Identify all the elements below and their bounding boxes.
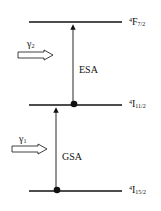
photon-sub: 1 xyxy=(23,138,26,144)
level-label-4f72: 4F7/2 xyxy=(129,17,145,27)
population-dot-4i112 xyxy=(71,101,78,108)
level-sup: 4 xyxy=(129,185,132,191)
population-dot-4i152 xyxy=(54,187,61,194)
gsa-label: GSA xyxy=(62,152,82,162)
level-sup: 4 xyxy=(129,17,132,23)
level-sub: 11/2 xyxy=(135,103,145,109)
level-sub: 7/2 xyxy=(138,21,146,27)
level-sub: 15/2 xyxy=(135,189,146,195)
level-base: F xyxy=(132,16,138,27)
esa-label: ESA xyxy=(79,65,98,75)
photon-arrow-gamma1 xyxy=(12,144,47,154)
photon-arrow-gamma2 xyxy=(18,50,53,60)
level-label-4i152: 4I15/2 xyxy=(129,185,146,195)
level-sup: 4 xyxy=(129,99,132,105)
photon-label-gamma1: γ1 xyxy=(19,134,26,144)
level-label-4i112: 4I11/2 xyxy=(129,99,146,109)
photon-label-gamma2: γ2 xyxy=(27,39,34,49)
photon-sub: 2 xyxy=(31,43,34,49)
